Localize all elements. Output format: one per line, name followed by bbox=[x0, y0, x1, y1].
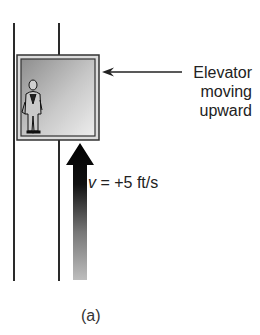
figure-caption: (a) bbox=[81, 307, 101, 325]
callout-label: Elevator moving upward bbox=[170, 63, 252, 120]
shaft-left-wall bbox=[13, 23, 15, 281]
velocity-arrow-icon bbox=[66, 143, 96, 283]
velocity-value: = +5 ft/s bbox=[96, 174, 158, 191]
shaft-right-wall-upper bbox=[58, 23, 60, 56]
velocity-label: v = +5 ft/s bbox=[88, 174, 158, 192]
elevator-car bbox=[16, 54, 100, 141]
velocity-symbol: v bbox=[88, 174, 96, 191]
callout-line-2: moving bbox=[170, 82, 252, 101]
callout-line-1: Elevator bbox=[170, 63, 252, 82]
diagram-canvas: Elevator moving upward v = +5 ft/s (a) bbox=[0, 0, 260, 335]
shaft-right-wall-lower bbox=[58, 139, 60, 281]
callout-line-3: upward bbox=[170, 101, 252, 120]
